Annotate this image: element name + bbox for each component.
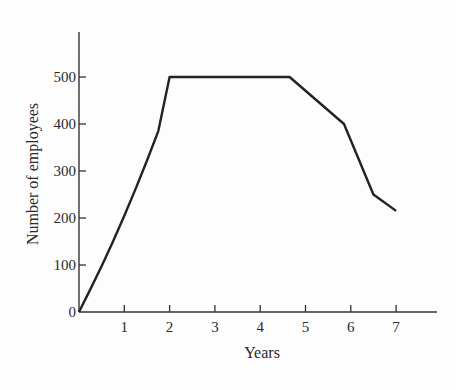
line-chart: 0100200300400500 1234567 Years Number of… [0,0,456,390]
x-tick-label: 3 [211,319,219,335]
x-tick-label: 2 [166,319,174,335]
x-tick-label: 5 [302,319,310,335]
x-tick-label: 7 [392,319,400,335]
employees-line [79,77,396,312]
y-axis-title: Number of employees [24,103,42,245]
x-axis-ticks: 1234567 [121,305,401,335]
y-tick-label: 100 [54,257,77,273]
x-tick-label: 6 [347,319,355,335]
axes [79,32,437,312]
y-axis-ticks: 0100200300400500 [54,69,87,320]
y-tick-label: 0 [69,304,77,320]
y-tick-label: 500 [54,69,77,85]
x-tick-label: 4 [256,319,264,335]
y-tick-label: 300 [54,163,77,179]
x-axis-title: Years [244,344,280,361]
y-tick-label: 200 [54,210,77,226]
x-tick-label: 1 [121,319,129,335]
y-tick-label: 400 [54,116,77,132]
